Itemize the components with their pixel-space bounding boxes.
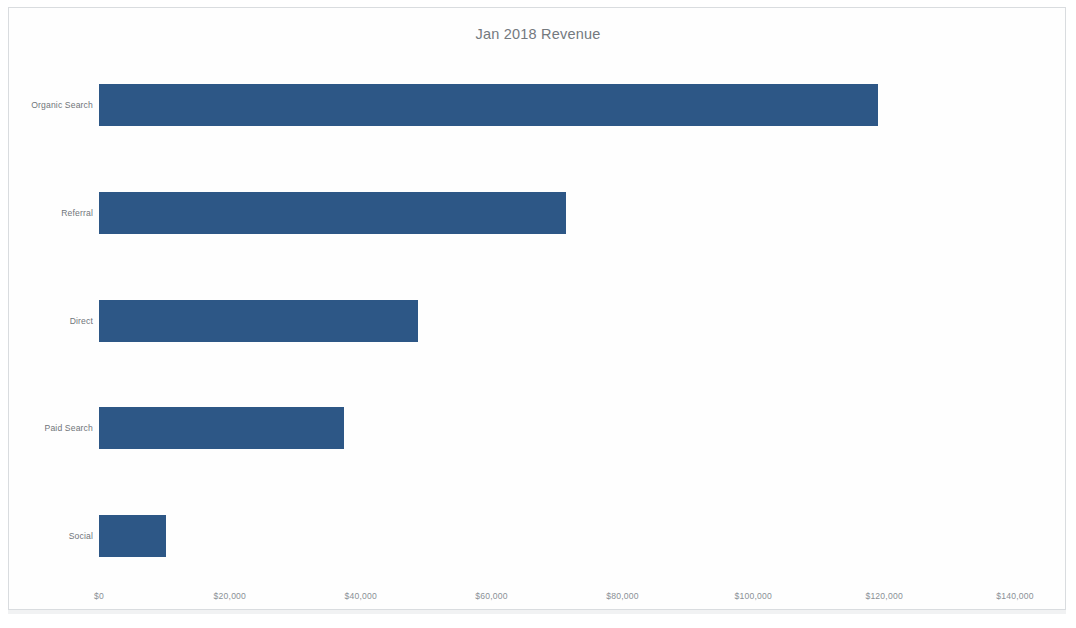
bar-row: Social (0, 515, 1076, 557)
bar-organic-search[interactable] (99, 84, 878, 126)
x-tick-label: $20,000 (214, 591, 246, 601)
x-tick-label: $40,000 (344, 591, 376, 601)
bar-row: Organic Search (0, 84, 1076, 126)
bar-row: Paid Search (0, 407, 1076, 449)
bar-row: Direct (0, 300, 1076, 342)
plot-area: Organic SearchReferralDirectPaid SearchS… (0, 0, 1076, 628)
x-axis: $0$20,000$40,000$60,000$80,000$100,000$1… (0, 591, 1076, 611)
x-tick-label: $80,000 (606, 591, 638, 601)
x-tick-label: $100,000 (735, 591, 772, 601)
x-tick-label: $60,000 (475, 591, 507, 601)
bar-direct[interactable] (99, 300, 418, 342)
category-label: Organic Search (31, 100, 93, 110)
category-label: Paid Search (45, 423, 93, 433)
category-label: Social (69, 531, 93, 541)
x-tick-label: $140,000 (996, 591, 1033, 601)
chart-page: Jan 2018 Revenue Organic SearchReferralD… (0, 0, 1076, 628)
category-label: Direct (70, 316, 93, 326)
bar-chart: Jan 2018 Revenue Organic SearchReferralD… (0, 0, 1076, 628)
category-label: Referral (61, 208, 93, 218)
bar-paid-search[interactable] (99, 407, 344, 449)
x-tick-label: $120,000 (865, 591, 902, 601)
bar-row: Referral (0, 192, 1076, 234)
bar-social[interactable] (99, 515, 166, 557)
bar-referral[interactable] (99, 192, 566, 234)
x-tick-label: $0 (94, 591, 104, 601)
